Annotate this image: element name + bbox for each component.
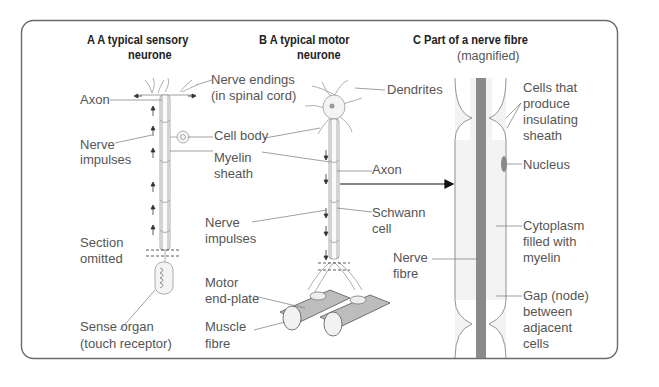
label-section-omitted-2: omitted: [80, 251, 123, 267]
label-cell-body: Cell body: [214, 128, 268, 144]
label-muscle-fibre-2: fibre: [205, 336, 230, 352]
label-schwann-cell: Schwann: [372, 205, 425, 221]
label-nerve-impulses-b-2: impulses: [205, 231, 256, 247]
panel-b-title: B A typical motor: [259, 32, 350, 48]
label-cytoplasm-3: myelin: [523, 250, 561, 266]
nucleus: [501, 156, 507, 172]
label-sense-organ: Sense organ: [80, 319, 154, 335]
label-sense-organ-2: (touch receptor): [80, 336, 172, 352]
label-gap-node: Gap (node): [523, 288, 589, 304]
panel-a-title-line2: neurone: [128, 47, 172, 63]
panel-b-title-line2: neurone: [297, 47, 341, 63]
label-muscle-fibre: Muscle: [205, 319, 246, 335]
panel-c-subtitle: (magnified): [457, 48, 520, 64]
label-cells-sheath: Cells that: [523, 80, 577, 96]
label-nucleus: Nucleus: [523, 157, 570, 173]
label-myelin-sheath-2: sheath: [214, 166, 253, 182]
axon-core: [476, 78, 486, 358]
label-nerve-impulses-a-2: impulses: [80, 152, 131, 168]
label-nerve-fibre: Nerve: [393, 250, 428, 266]
label-cells-sheath-4: sheath: [523, 128, 562, 144]
label-nerve-impulses-b: Nerve: [205, 215, 240, 231]
label-dendrites: Dendrites: [387, 82, 443, 98]
label-gap-node-3: adjacent: [523, 320, 572, 336]
impulse-arrows-b: [324, 150, 328, 260]
label-axon-b: Axon: [372, 162, 402, 178]
label-nerve-impulses-a: Nerve: [80, 137, 115, 153]
label-motor-end-plate-2: end-plate: [205, 291, 259, 307]
magnify-arrow: [340, 180, 453, 188]
section-omitted-dashes-a: [146, 250, 180, 256]
label-schwann-cell-2: cell: [372, 221, 392, 237]
label-gap-node-2: between: [523, 304, 572, 320]
label-cells-sheath-3: insulating: [523, 112, 578, 128]
label-gap-node-4: cells: [523, 336, 549, 352]
label-axon-a: Axon: [80, 92, 110, 108]
label-cytoplasm: Cytoplasm: [523, 218, 584, 234]
label-cytoplasm-2: filled with: [523, 234, 576, 250]
label-nerve-endings-2: (in spinal cord): [211, 88, 296, 104]
panel-a-title: A A typical sensory: [87, 32, 188, 48]
sensory-neurone: [140, 78, 197, 294]
label-nerve-endings: Nerve endings: [211, 72, 295, 88]
nerve-fibre-magnified: [455, 78, 507, 358]
label-motor-end-plate: Motor: [205, 275, 238, 291]
label-cells-sheath-2: produce: [523, 96, 570, 112]
label-nerve-fibre-2: fibre: [393, 266, 418, 282]
panel-c-title: C Part of a nerve fibre: [413, 32, 528, 48]
label-section-omitted: Section: [80, 235, 123, 251]
label-myelin-sheath: Myelin: [214, 150, 252, 166]
